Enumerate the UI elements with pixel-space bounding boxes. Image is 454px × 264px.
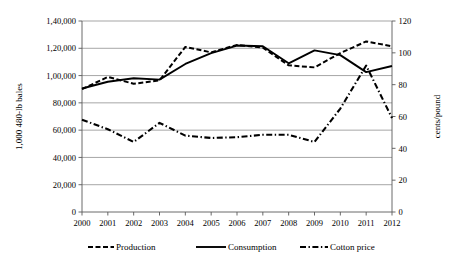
y-axis-left-tick-label: 0: [72, 207, 76, 217]
y-axis-right-tick-label: 60: [399, 112, 408, 122]
x-axis-tick-label: 2003: [151, 218, 168, 228]
y-axis-right-tick-label: 80: [399, 80, 408, 90]
x-axis-tick-label: 2010: [332, 218, 349, 228]
y-axis-right-title: cents/pound: [432, 94, 442, 138]
x-axis-tick-label: 2004: [177, 218, 195, 228]
y-axis-right-tick-label: 120: [399, 16, 412, 26]
legend-label-consumption: Consumption: [228, 242, 277, 252]
y-axis-left-title: 1,000 480-lb bales: [14, 83, 24, 150]
y-axis-left-tick-label: 1,00,000: [46, 71, 76, 81]
legend-label-cotton-price: Cotton price: [330, 242, 375, 252]
y-axis-left-tick-label: 20,000: [53, 180, 76, 190]
y-axis-left-tick-label: 1,20,000: [46, 43, 76, 53]
x-axis-tick-label: 2009: [306, 218, 323, 228]
y-axis-left-tick-label: 40,000: [53, 153, 76, 163]
chart-container: 020,00040,00060,00080,0001,00,0001,20,00…: [0, 0, 454, 264]
x-axis-tick-label: 2006: [229, 218, 246, 228]
y-axis-right-tick-label: 40: [399, 144, 408, 154]
x-axis-tick-label: 2012: [384, 218, 401, 228]
y-axis-left-tick-label: 1,40,000: [46, 16, 76, 26]
y-axis-right-tick-label: 0: [399, 207, 403, 217]
cotton-chart: 020,00040,00060,00080,0001,00,0001,20,00…: [0, 0, 454, 264]
x-axis-tick-label: 2011: [358, 218, 375, 228]
x-axis-tick-label: 2005: [203, 218, 220, 228]
legend-label-production: Production: [116, 242, 156, 252]
y-axis-left-tick-label: 80,000: [53, 98, 76, 108]
y-axis-right-tick-label: 100: [399, 48, 412, 58]
x-axis-tick-label: 2001: [99, 218, 116, 228]
y-axis-left-tick-label: 60,000: [53, 125, 76, 135]
series-line-cotton-price: [82, 66, 392, 142]
x-axis-tick-label: 2008: [280, 218, 297, 228]
x-axis-tick-label: 2002: [125, 218, 142, 228]
x-axis-tick-label: 2000: [74, 218, 91, 228]
y-axis-right-tick-label: 20: [399, 175, 408, 185]
x-axis-tick-label: 2007: [254, 218, 271, 228]
